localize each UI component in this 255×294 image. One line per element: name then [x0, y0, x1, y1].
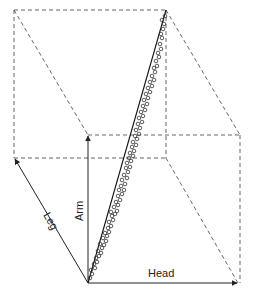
data-point — [118, 198, 122, 202]
data-point — [139, 110, 143, 114]
data-point — [134, 143, 138, 147]
data-point — [107, 230, 111, 234]
edge-top-diagonal-left — [14, 10, 88, 135]
data-point — [160, 36, 164, 40]
data-point — [137, 116, 141, 120]
data-point — [140, 120, 144, 124]
data-point — [109, 210, 113, 214]
data-point — [120, 178, 124, 182]
data-point — [103, 231, 107, 235]
data-point — [152, 78, 156, 82]
data-point — [144, 92, 148, 96]
data-point — [138, 126, 142, 130]
data-point — [125, 176, 129, 180]
data-point — [159, 47, 163, 51]
data-point — [155, 64, 159, 68]
data-point — [93, 266, 97, 270]
data-point — [146, 96, 150, 100]
leg-axis-label: Leg — [41, 210, 61, 232]
data-point — [122, 188, 126, 192]
data-point — [157, 55, 161, 59]
data-point — [148, 90, 152, 94]
data-point — [141, 104, 145, 108]
data-point — [120, 192, 124, 196]
data-point — [154, 59, 158, 63]
data-point — [111, 218, 115, 222]
data-point — [109, 224, 113, 228]
data-point — [150, 84, 154, 88]
data-point — [117, 188, 121, 192]
data-point — [126, 170, 130, 174]
data-point — [115, 209, 119, 213]
data-point — [101, 236, 105, 240]
data-point — [145, 102, 149, 106]
arm-axis-label: Arm — [73, 201, 85, 221]
data-point — [114, 200, 118, 204]
data-point — [134, 128, 138, 132]
data-point — [102, 243, 106, 247]
data-point — [131, 140, 135, 144]
data-point — [104, 239, 108, 243]
data-point — [141, 114, 145, 118]
data-point — [128, 151, 132, 155]
edge-top-diagonal-right — [166, 10, 240, 135]
data-point — [119, 184, 123, 188]
edge-bottom-diagonal-right — [166, 158, 238, 283]
data-point — [159, 32, 163, 36]
data-point — [132, 149, 136, 153]
data-point — [143, 108, 147, 112]
data-point — [124, 166, 128, 170]
data-point — [133, 134, 137, 138]
data-point — [122, 173, 126, 177]
data-point — [150, 74, 154, 78]
diagram-canvas: Head Arm Leg — [0, 0, 255, 294]
data-point — [156, 51, 160, 55]
data-point — [142, 98, 146, 102]
data-point — [107, 220, 111, 224]
data-point — [136, 122, 140, 126]
data-point — [128, 165, 132, 169]
data-point — [162, 22, 166, 26]
data-point — [116, 194, 120, 198]
data-point — [95, 260, 99, 264]
data-point — [161, 27, 165, 31]
data-point — [158, 42, 162, 46]
data-point — [130, 145, 134, 149]
data-point — [112, 205, 116, 209]
data-point — [123, 182, 127, 186]
data-point — [153, 70, 157, 74]
data-point — [125, 161, 129, 165]
data-point — [146, 86, 150, 90]
data-point — [148, 80, 152, 84]
data-point — [131, 154, 135, 158]
head-axis-label: Head — [148, 267, 174, 279]
